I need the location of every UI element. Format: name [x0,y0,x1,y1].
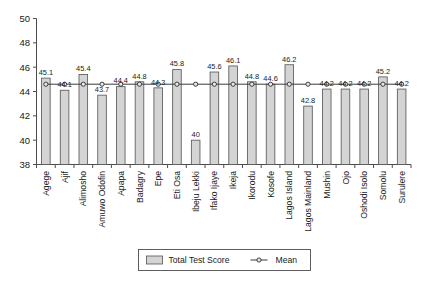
y-tick-label: 50 [19,13,30,24]
x-category-label: Ibeju Lekki [191,171,201,212]
bar-value-label: 45.1 [39,68,53,77]
bar-value-label: 44.2 [394,79,408,88]
x-category-label: Badagry [135,170,145,203]
bar-value-label: 43.7 [95,85,109,94]
bar [154,88,163,165]
mean-marker [81,82,85,86]
mean-marker [231,82,235,86]
bar-value-label: 44.2 [320,79,334,88]
data-labels: 45.144.145.443.744.444.844.345.84045.646… [39,55,409,139]
bar-value-label: 44.2 [338,79,352,88]
y-tick-label: 38 [19,159,30,170]
bar-value-label: 44.8 [245,72,259,81]
bar-value-label: 44.6 [263,74,277,83]
bar [116,87,125,165]
bar [360,89,369,164]
bar [229,66,238,165]
x-category-label: Ajif [60,170,70,183]
bar-value-label: 46.1 [226,56,240,65]
bar [304,106,313,164]
y-tick-label: 48 [19,37,30,48]
bar [379,77,388,165]
bar-value-label: 44.4 [114,76,128,85]
x-category-label: Lagos Mainland [303,171,313,232]
bar [79,74,88,164]
bar-chart: 38404244464850 45.144.145.443.744.444.84… [0,0,425,285]
bar [266,84,275,164]
chart-container: 38404244464850 45.144.145.443.744.444.84… [0,0,425,285]
mean-marker [306,82,310,86]
bar-value-label: 44.3 [151,78,165,87]
bar [397,89,406,164]
y-tick-label: 46 [19,62,30,73]
x-category-label: Kosofe [266,171,276,198]
y-tick-label: 44 [19,86,30,97]
x-category-label: Apapa [116,171,126,196]
x-category-label: Amuwo Odofin [97,171,107,228]
x-category-label: Alimosho [78,171,88,207]
x-category-label: Ojo [341,171,351,185]
x-category-label: Ikorodu [247,171,257,200]
bar [60,90,69,164]
y-axis: 38404244464850 [19,13,36,170]
x-category-label: Oshodi Isolo [359,171,369,219]
y-tick-label: 42 [19,110,30,121]
bar [191,140,200,164]
x-axis [37,165,412,169]
x-category-label: Ifako Ijaye [209,171,219,210]
bar [42,78,51,164]
bar-value-label: 44.2 [357,79,371,88]
x-category-label: Mushin [322,171,332,199]
bar-value-label: 46.2 [282,55,296,64]
bar-value-label: 45.6 [207,62,221,71]
bar [341,89,350,164]
bar-value-label: 44.8 [132,72,146,81]
x-category-label: Somolu [378,171,388,200]
bar-value-label: 45.2 [376,67,390,76]
mean-marker [381,82,385,86]
bar [322,89,331,164]
legend-marker-mean [257,258,261,262]
legend-label-mean: Mean [276,255,298,265]
category-labels: AgegeAjifAlimoshoAmuwo OdofinApapaBadagr… [41,170,407,231]
mean-marker [287,82,291,86]
mean-marker [250,82,254,86]
legend-label-total-test-score: Total Test Score [169,255,230,265]
x-category-label: Eti Osa [172,171,182,199]
mean-marker [194,82,198,86]
mean-marker [44,82,48,86]
bar-value-label: 42.8 [301,96,315,105]
bar-value-label: 40 [192,130,200,139]
mean-marker [212,82,216,86]
x-category-label: Surulere [397,171,407,204]
x-category-label: Lagos Island [284,171,294,220]
bar [98,95,107,164]
bar-value-label: 45.4 [76,64,90,73]
mean-marker [175,82,179,86]
bar [285,65,294,165]
x-category-label: Ikeja [228,171,238,189]
bar [135,82,144,165]
mean-marker [137,82,141,86]
bar-value-label: 45.8 [170,59,184,68]
bar-value-label: 44.1 [57,80,71,89]
x-category-label: Epe [153,171,163,187]
bar [248,82,257,165]
legend-swatch-total-test-score [147,256,163,264]
x-category-label: Agege [41,171,51,196]
chart-legend: Total Test ScoreMean [139,250,311,271]
y-tick-label: 40 [19,135,30,146]
